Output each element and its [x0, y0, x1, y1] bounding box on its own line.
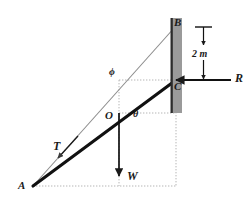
force-diagram-figure: B C O A T W R ϕ θ 2 m — [0, 0, 251, 199]
cable-segment — [33, 27, 175, 186]
point-label-c: C — [174, 81, 181, 92]
rod-segment — [33, 80, 176, 186]
wall-body — [172, 18, 182, 113]
vector-label-w: W — [127, 170, 138, 182]
cable-line-ab — [33, 27, 175, 186]
point-label-o: O — [105, 110, 113, 121]
point-label-b: B — [174, 17, 181, 28]
dimension-label-2m: 2 m — [192, 49, 207, 59]
wall-post — [171, 18, 183, 113]
angle-label-phi: ϕ — [109, 67, 115, 77]
point-label-a: A — [18, 180, 25, 191]
wall-front-edge — [171, 18, 173, 113]
diagram-canvas — [0, 0, 251, 199]
vector-label-r: R — [235, 72, 243, 84]
rod-line-ac — [33, 80, 176, 186]
angle-label-theta: θ — [133, 109, 138, 119]
vector-label-t: T — [53, 140, 60, 152]
